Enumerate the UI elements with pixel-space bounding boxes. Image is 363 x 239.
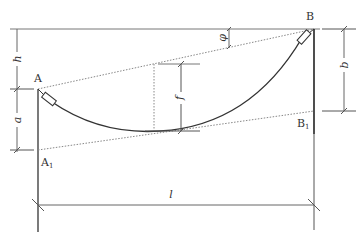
label-point-b1: B1 — [297, 117, 310, 131]
label-phi: φ — [216, 34, 229, 42]
label-b: b — [338, 61, 351, 68]
insulator-a — [38, 89, 56, 106]
chord-ab — [38, 29, 314, 89]
label-h: h — [11, 55, 24, 62]
insulator-b — [297, 29, 314, 44]
label-point-b: B — [306, 10, 314, 23]
label-point-a: A — [33, 72, 43, 85]
label-point-a1: A1 — [40, 156, 53, 170]
label-a: a — [11, 117, 24, 124]
cable-curve — [52, 38, 302, 131]
label-l: l — [169, 188, 173, 201]
cable-diagram: f h a b l φ A B A1 B1 — [0, 0, 363, 239]
